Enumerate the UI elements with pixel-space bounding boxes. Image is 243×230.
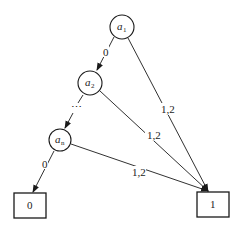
node-an: a n: [49, 129, 71, 151]
svg-text:n: n: [61, 139, 65, 147]
ellipsis: ⋯: [71, 101, 82, 113]
edge-dots-to-an: [65, 113, 73, 128]
edge-label-a2-1: 1,2: [147, 129, 161, 141]
edge-label-a1-1: 1,2: [161, 103, 175, 115]
svg-text:0: 0: [27, 199, 33, 211]
bdd-diagram: 0 ⋯ 0 1,2 1,2 1,2 a 1 a 2 a n 0 1: [0, 0, 243, 230]
svg-text:1: 1: [123, 26, 127, 34]
edge-label-an-0: 0: [42, 158, 48, 170]
svg-text:2: 2: [91, 82, 95, 90]
terminal-1: 1: [197, 192, 229, 217]
edge-label-a1-a2: 0: [103, 46, 109, 58]
node-a2: a 2: [78, 71, 102, 95]
svg-text:1: 1: [210, 198, 216, 210]
edge-label-an-1: 1,2: [132, 166, 146, 178]
terminal-0: 0: [14, 193, 46, 218]
node-a1: a 1: [110, 15, 134, 39]
